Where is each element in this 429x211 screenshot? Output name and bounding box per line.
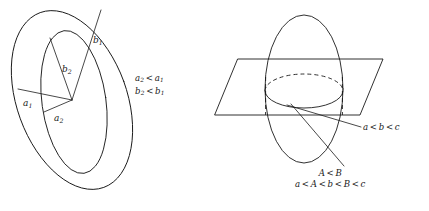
right-conditions-block: A<B a<A<b<B<c bbox=[295, 168, 366, 190]
abc-rel-1: < bbox=[384, 122, 394, 132]
intersection-circle-back-arc bbox=[265, 74, 343, 91]
condition-b2-lt-b1: b2<b1 bbox=[135, 86, 165, 99]
aAbBc-term-4: c bbox=[361, 179, 366, 189]
cond-a1-sub: 1 bbox=[160, 77, 164, 83]
condition-a-A-b-B-c: a<A<b<B<c bbox=[295, 179, 366, 190]
left-panel-group: b1 b2 a1 a2 bbox=[0, 0, 155, 206]
condition-a2-lt-a1: a2<a1 bbox=[135, 73, 165, 86]
aAbBc-rel-2: < bbox=[333, 179, 343, 189]
aAbBc-rel-3: < bbox=[350, 179, 360, 189]
condition-a-lt-b-lt-c: a<b<c bbox=[363, 122, 400, 133]
cond-rel-2: < bbox=[145, 86, 155, 96]
leader-line-abc bbox=[287, 105, 361, 127]
semi-axis-b1-segment bbox=[72, 10, 101, 100]
inner-ellipse bbox=[32, 26, 115, 178]
right-panel-group bbox=[215, 15, 383, 166]
left-conditions-block: a2<a1 b2<b1 bbox=[135, 73, 165, 100]
leader-line-AB bbox=[291, 104, 344, 166]
label-b2: b2 bbox=[62, 64, 72, 75]
cutting-plane bbox=[215, 59, 383, 115]
ellipsoid-outline bbox=[265, 15, 343, 163]
semi-axis-a2-segment bbox=[44, 100, 72, 112]
label-a1: a1 bbox=[23, 98, 32, 109]
AB-rel-0: < bbox=[325, 168, 335, 178]
AB-term-1: B bbox=[335, 168, 342, 178]
aAbBc-rel-1: < bbox=[317, 179, 327, 189]
aAbBc-rel-0: < bbox=[300, 179, 310, 189]
label-b1: b1 bbox=[93, 35, 103, 46]
intersection-circle-front-arc bbox=[265, 91, 343, 108]
label-a2: a2 bbox=[54, 113, 63, 124]
abc-term-2: c bbox=[395, 122, 400, 132]
abc-rel-0: < bbox=[368, 122, 378, 132]
cond-rel-1: < bbox=[144, 73, 154, 83]
condition-A-lt-B: A<B bbox=[295, 168, 366, 179]
cond-b1-sub: 1 bbox=[161, 91, 165, 97]
figure-root: b1 b2 a1 a2 a2<a1 bbox=[0, 0, 429, 211]
